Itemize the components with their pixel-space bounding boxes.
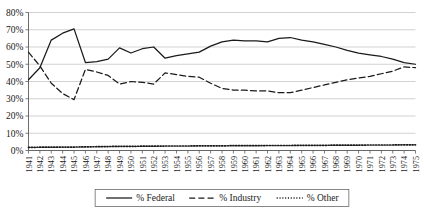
x-tick-label: 1974 <box>400 156 409 172</box>
gridlines <box>29 13 416 151</box>
y-tick-label: 80% <box>6 8 24 18</box>
x-tick-label: 1960 <box>241 156 250 172</box>
chart-legend: % Federal% Industry% Other <box>95 190 349 207</box>
y-tick-label: 10% <box>6 129 24 139</box>
x-tick-label: 1972 <box>378 156 387 172</box>
x-tick-label: 1963 <box>275 156 284 172</box>
x-tick-label: 1950 <box>127 156 136 172</box>
x-tick-label: 1954 <box>173 156 182 172</box>
x-tick-label: 1975 <box>412 156 421 172</box>
x-tick-label: 1965 <box>298 156 307 172</box>
x-tick-label: 1971 <box>366 156 375 172</box>
x-tick-label: 1948 <box>104 156 113 172</box>
x-tick-label: 1945 <box>70 156 79 172</box>
x-tick-label: 1949 <box>116 156 125 172</box>
y-tick-label: 20% <box>6 111 24 121</box>
x-tick-label: 1951 <box>139 156 148 172</box>
y-tick-label: 0% <box>11 146 24 156</box>
x-tick-label: 1962 <box>264 156 273 172</box>
chart-container: 0%10%20%30%40%50%60%70%80% 1941194219431… <box>0 0 424 216</box>
x-tick-label: 1969 <box>343 156 352 172</box>
x-tick-label: 1961 <box>252 156 261 172</box>
x-tick-label: 1953 <box>161 156 170 172</box>
x-tick-label: 1943 <box>47 156 56 172</box>
line-chart: 0%10%20%30%40%50%60%70%80% 1941194219431… <box>0 0 424 216</box>
x-tick-label: 1958 <box>218 156 227 172</box>
x-tick-label: 1942 <box>36 156 45 172</box>
x-tick-label: 1947 <box>93 156 102 172</box>
x-tick-label: 1957 <box>207 156 216 172</box>
x-axis: 1941194219431944194519461947194819491950… <box>25 151 421 173</box>
x-tick-label: 1966 <box>309 156 318 172</box>
y-tick-label: 30% <box>6 94 24 104</box>
x-tick-label: 1956 <box>195 156 204 172</box>
legend-label-federal: % Federal <box>136 193 175 203</box>
series-line-federal <box>29 29 416 80</box>
x-tick-label: 1944 <box>59 156 68 172</box>
legend-label-industry: % Industry <box>219 193 261 203</box>
series-line-other <box>29 145 416 148</box>
y-axis: 0%10%20%30%40%50%60%70%80% <box>6 8 28 156</box>
y-tick-label: 70% <box>6 25 24 35</box>
y-tick-label: 40% <box>6 77 24 87</box>
plot-area: 0%10%20%30%40%50%60%70%80% 1941194219431… <box>0 0 424 216</box>
series-line-industry <box>29 52 416 99</box>
x-tick-label: 1973 <box>389 156 398 172</box>
x-tick-label: 1952 <box>150 156 159 172</box>
x-tick-label: 1946 <box>82 156 91 172</box>
legend-label-other: % Other <box>307 193 340 203</box>
x-tick-label: 1964 <box>286 156 295 172</box>
x-tick-label: 1941 <box>25 156 34 172</box>
y-tick-label: 60% <box>6 42 24 52</box>
y-tick-label: 50% <box>6 60 24 70</box>
x-tick-label: 1968 <box>332 156 341 172</box>
x-tick-label: 1959 <box>230 156 239 172</box>
x-tick-label: 1970 <box>355 156 364 172</box>
x-tick-label: 1955 <box>184 156 193 172</box>
x-tick-label: 1967 <box>321 156 330 172</box>
